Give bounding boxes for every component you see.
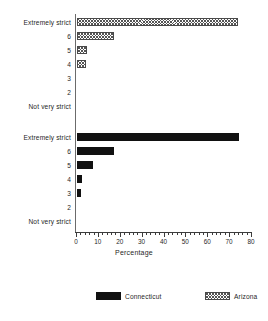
tick-label: 30 (138, 238, 145, 245)
tick-minor (102, 232, 103, 235)
bar-connecticut (77, 147, 114, 155)
tick-minor (190, 232, 191, 235)
row-label: Extremely strict (24, 134, 71, 141)
row-label: 5 (67, 47, 71, 54)
chart-row: 4 (76, 172, 251, 186)
tick-minor (168, 232, 169, 235)
chart-row: 3 (76, 71, 251, 85)
tick-minor (129, 232, 130, 235)
row-label: Extremely strict (24, 19, 71, 26)
tick-minor (80, 232, 81, 235)
tick-minor (150, 232, 151, 235)
chart-row: 5 (76, 158, 251, 172)
bar-connecticut (77, 161, 93, 169)
tick-minor (194, 232, 195, 235)
tick-minor (133, 232, 134, 235)
chart-row: Extremely strict (76, 130, 251, 144)
chart-row: 2 (76, 85, 251, 99)
chart-legend: Connecticut Arizona (0, 292, 268, 310)
plot-area: Extremely strict65432Not very strict Ext… (76, 14, 251, 232)
tick-minor (247, 232, 248, 235)
tick-minor (242, 232, 243, 235)
legend-label-arizona: Arizona (234, 293, 257, 300)
tick-minor (94, 232, 95, 235)
tick-minor (107, 232, 108, 235)
row-label: Not very strict (28, 103, 71, 110)
legend-label-connecticut: Connecticut (125, 293, 161, 300)
tick-minor (177, 232, 178, 235)
tick-minor (203, 232, 204, 235)
chart-row: Not very strict (76, 99, 251, 113)
chart-row: 3 (76, 186, 251, 200)
tick-minor (172, 232, 173, 235)
tick-minor (212, 232, 213, 235)
tick-minor (89, 232, 90, 235)
tick-minor (216, 232, 217, 235)
tick-label: 20 (116, 238, 123, 245)
bar-connecticut (77, 133, 239, 141)
bar-arizona (77, 46, 87, 54)
tick-minor (159, 232, 160, 235)
bar-arizona (77, 32, 114, 40)
bar-chart: Extremely strict65432Not very strict Ext… (0, 0, 268, 321)
tick-minor (181, 232, 182, 235)
chart-row: 4 (76, 57, 251, 71)
tick-major (251, 232, 252, 237)
row-label: Not very strict (28, 218, 71, 225)
tick-minor (225, 232, 226, 235)
tick-minor (124, 232, 125, 235)
tick-label: 50 (182, 238, 189, 245)
tick-major (98, 232, 99, 237)
row-label: 5 (67, 162, 71, 169)
tick-label: 0 (74, 238, 78, 245)
tick-minor (220, 232, 221, 235)
tick-minor (115, 232, 116, 235)
bar-connecticut (77, 189, 81, 197)
tick-label: 10 (94, 238, 101, 245)
tick-minor (234, 232, 235, 235)
bar-connecticut (77, 175, 82, 183)
chart-row: Not very strict (76, 214, 251, 228)
tick-minor (137, 232, 138, 235)
chart-row: 6 (76, 29, 251, 43)
legend-item-connecticut: Connecticut (96, 292, 161, 300)
chart-row: 5 (76, 43, 251, 57)
row-label: 2 (67, 89, 71, 96)
row-label: 2 (67, 204, 71, 211)
tick-major (229, 232, 230, 237)
tick-major (142, 232, 143, 237)
tick-major (185, 232, 186, 237)
tick-label: 40 (160, 238, 167, 245)
row-label: 4 (67, 176, 71, 183)
bar-arizona (77, 60, 86, 68)
legend-swatch-arizona (205, 292, 230, 300)
tick-minor (155, 232, 156, 235)
row-label: 3 (67, 190, 71, 197)
tick-label: 70 (226, 238, 233, 245)
chart-row: Extremely strict (76, 15, 251, 29)
legend-swatch-connecticut (96, 292, 121, 300)
tick-label: 80 (247, 238, 254, 245)
tick-major (120, 232, 121, 237)
tick-label: 60 (204, 238, 211, 245)
row-label: 3 (67, 75, 71, 82)
tick-minor (111, 232, 112, 235)
chart-row: 2 (76, 200, 251, 214)
x-axis-title: Percentage (0, 249, 268, 256)
row-label: 6 (67, 33, 71, 40)
bar-arizona (77, 18, 238, 26)
row-label: 6 (67, 148, 71, 155)
tick-minor (238, 232, 239, 235)
chart-row: 6 (76, 144, 251, 158)
row-label: 4 (67, 61, 71, 68)
tick-minor (85, 232, 86, 235)
tick-minor (199, 232, 200, 235)
tick-major (207, 232, 208, 237)
tick-major (164, 232, 165, 237)
legend-item-arizona: Arizona (205, 292, 257, 300)
tick-major (76, 232, 77, 237)
tick-minor (146, 232, 147, 235)
